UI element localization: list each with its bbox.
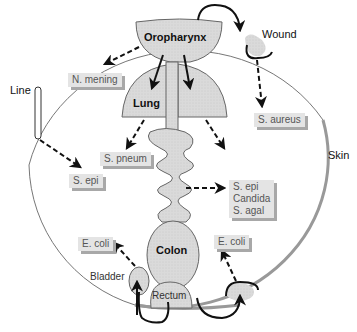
skin-label: Skin xyxy=(328,149,349,161)
colon-label: Colon xyxy=(156,244,187,256)
small-intestine-shape xyxy=(148,129,193,223)
line-catheter xyxy=(35,87,41,139)
organism-box-gut-list: S. epi Candida S. agal xyxy=(229,180,274,218)
oropharynx-label: Oropharynx xyxy=(144,31,206,43)
rectum-label: Rectum xyxy=(152,290,186,301)
line-label: Line xyxy=(10,84,31,96)
bladder-shape xyxy=(129,267,149,295)
diagram-canvas xyxy=(0,0,357,332)
esophagus-shape xyxy=(166,62,178,132)
organism-s-agal: S. agal xyxy=(233,205,270,217)
lung-label: Lung xyxy=(133,97,160,109)
organism-box-s-pneum: S. pneum xyxy=(100,152,151,166)
organism-box-e-coli-skin: E. coli xyxy=(214,235,249,249)
organism-box-s-epi: S. epi xyxy=(69,174,103,188)
organism-box-n-mening: N. mening xyxy=(68,73,122,87)
bladder-label: Bladder xyxy=(90,271,124,282)
organism-candida: Candida xyxy=(233,193,270,205)
organism-s-epi: S. epi xyxy=(233,181,270,193)
lung-shape-right xyxy=(178,64,227,117)
wound-label: Wound xyxy=(262,28,297,40)
lung-shape xyxy=(122,64,172,117)
infection-source-diagram: Oropharynx Lung Colon Rectum Bladder Wou… xyxy=(0,0,357,332)
organism-box-s-aureus: S. aureus xyxy=(254,113,305,127)
organism-box-e-coli-bladder: E. coli xyxy=(78,237,113,251)
